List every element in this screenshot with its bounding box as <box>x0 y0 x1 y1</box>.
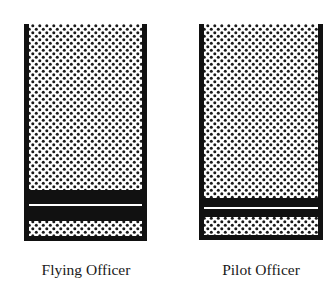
white-centre-line <box>29 204 142 206</box>
right-border <box>318 24 323 240</box>
flying-officer-label: Flying Officer <box>24 261 148 279</box>
flying-officer-sleeve-graphic <box>24 24 147 242</box>
lower-black-band <box>24 206 147 221</box>
bottom-border <box>199 235 323 240</box>
pilot-officer-insignia <box>199 24 323 241</box>
upper-black-band <box>24 190 147 204</box>
bottom-dotted-strip <box>29 221 142 236</box>
lower-black-band <box>199 209 323 217</box>
flying-officer-insignia <box>24 24 147 242</box>
pilot-officer-label: Pilot Officer <box>199 261 323 279</box>
bottom-dotted-strip <box>204 217 318 235</box>
bottom-border <box>24 236 147 241</box>
pilot-officer-sleeve-graphic <box>199 24 323 241</box>
left-border <box>199 24 204 240</box>
white-centre-line <box>204 207 318 209</box>
upper-black-band <box>199 198 323 207</box>
